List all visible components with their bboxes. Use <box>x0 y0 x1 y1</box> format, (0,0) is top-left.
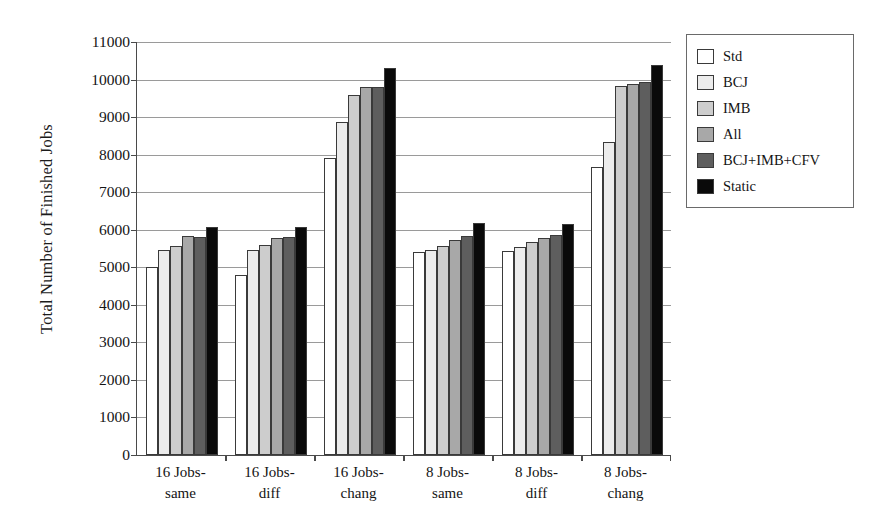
bar <box>526 242 538 455</box>
bar <box>283 237 295 455</box>
bar <box>146 267 158 455</box>
bar <box>182 236 194 455</box>
y-tick-label: 9000 <box>68 108 130 126</box>
bar-group <box>404 42 493 455</box>
x-tick-label: 8 Jobs-chang <box>581 462 670 518</box>
legend-item: BCJ <box>697 69 845 95</box>
bar <box>360 87 372 455</box>
bar-group <box>226 42 315 455</box>
bar <box>591 167 603 455</box>
bar <box>271 238 283 455</box>
x-tick-label: 8 Jobs-same <box>403 462 492 518</box>
x-tick-label: 16 Jobs-chang <box>314 462 403 518</box>
bar <box>615 86 627 455</box>
legend-label: IMB <box>723 100 750 117</box>
legend-label: BCJ+IMB+CFV <box>723 152 820 169</box>
bar <box>562 224 574 455</box>
bar <box>461 236 473 455</box>
bar <box>413 252 425 455</box>
y-tick-label: 1000 <box>68 408 130 426</box>
x-axis-tick-labels: 16 Jobs-same16 Jobs-diff16 Jobs-chang8 J… <box>136 462 670 518</box>
legend-swatch <box>697 101 714 116</box>
legend-item: All <box>697 121 845 147</box>
bar <box>247 250 259 455</box>
bar <box>194 237 206 455</box>
bar <box>158 250 170 455</box>
y-tick-label: 6000 <box>68 221 130 239</box>
bar <box>206 227 218 455</box>
y-tick-mark <box>131 455 137 456</box>
x-tick-label: 16 Jobs-diff <box>225 462 314 518</box>
bar <box>550 235 562 455</box>
y-tick-label: 0 <box>68 446 130 464</box>
x-tick-mark <box>404 455 405 461</box>
legend: StdBCJIMBAllBCJ+IMB+CFVStatic <box>686 34 854 208</box>
bar <box>651 65 663 455</box>
bar <box>259 245 271 455</box>
bar <box>295 227 307 455</box>
bar <box>538 238 550 455</box>
legend-label: All <box>723 126 742 143</box>
x-tick-label: 16 Jobs-same <box>136 462 225 518</box>
y-tick-label: 8000 <box>68 146 130 164</box>
bar-chart: Total Number of Finished Jobs 1100010000… <box>0 0 876 526</box>
bar <box>324 158 336 455</box>
legend-swatch <box>697 179 714 194</box>
legend-swatch <box>697 75 714 90</box>
legend-swatch <box>697 153 714 168</box>
x-tick-mark <box>582 455 583 461</box>
y-tick-label: 4000 <box>68 296 130 314</box>
legend-label: Static <box>723 178 756 195</box>
x-tick-mark <box>315 455 316 461</box>
bar-group <box>137 42 226 455</box>
bar <box>372 87 384 455</box>
bar <box>514 247 526 455</box>
legend-item: Static <box>697 173 845 199</box>
bar <box>603 142 615 455</box>
bar <box>384 68 396 455</box>
bar-group <box>493 42 582 455</box>
y-tick-label: 11000 <box>68 33 130 51</box>
bar-group <box>315 42 404 455</box>
bar <box>627 84 639 455</box>
y-tick-label: 3000 <box>68 333 130 351</box>
bar <box>336 122 348 455</box>
bar <box>425 250 437 455</box>
bar <box>348 95 360 455</box>
bar <box>639 82 651 455</box>
legend-label: Std <box>723 48 742 65</box>
bar-group <box>582 42 671 455</box>
legend-item: IMB <box>697 95 845 121</box>
x-tick-mark <box>493 455 494 461</box>
bar <box>502 251 514 455</box>
bar <box>235 275 247 455</box>
legend-item: Std <box>697 43 845 69</box>
y-tick-label: 2000 <box>68 371 130 389</box>
bar-groups <box>137 42 671 455</box>
y-axis-tick-labels: 1100010000900080007000600050004000300020… <box>62 42 130 455</box>
x-tick-label: 8 Jobs-diff <box>492 462 581 518</box>
y-tick-label: 7000 <box>68 183 130 201</box>
bar <box>449 240 461 455</box>
y-tick-label: 5000 <box>68 258 130 276</box>
legend-swatch <box>697 127 714 142</box>
x-tick-mark <box>670 455 671 461</box>
x-tick-mark <box>226 455 227 461</box>
bar <box>170 246 182 455</box>
legend-swatch <box>697 49 714 64</box>
y-tick-label: 10000 <box>68 71 130 89</box>
legend-item: BCJ+IMB+CFV <box>697 147 845 173</box>
bar <box>437 246 449 455</box>
plot-area <box>136 42 671 456</box>
legend-label: BCJ <box>723 74 748 91</box>
bar <box>473 223 485 455</box>
